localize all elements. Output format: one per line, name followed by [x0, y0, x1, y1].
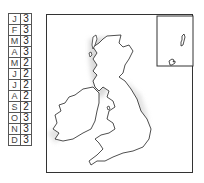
table-row: J2: [9, 69, 32, 80]
inset-frame: [157, 16, 193, 66]
table-row: N3: [9, 124, 32, 135]
month-value: 2: [21, 58, 32, 69]
month-label: M: [9, 36, 21, 47]
month-value: 3: [21, 36, 32, 47]
table-row: A3: [9, 47, 32, 58]
month-label: N: [9, 124, 21, 135]
month-label: D: [9, 135, 21, 146]
month-value-table: J3 F3 M3 A3 M2 J2 J2 A2 S2 O3 N3 D3: [8, 13, 32, 146]
month-value: 3: [21, 124, 32, 135]
month-label: M: [9, 58, 21, 69]
table-row: A2: [9, 91, 32, 102]
table-row: O3: [9, 113, 32, 124]
isle-of-man: [107, 106, 110, 110]
month-value: 2: [21, 69, 32, 80]
month-label: J: [9, 69, 21, 80]
month-value: 3: [21, 25, 32, 36]
month-value: 2: [21, 102, 32, 113]
table-row: F3: [9, 25, 32, 36]
month-label: A: [9, 91, 21, 102]
month-value: 3: [21, 14, 32, 25]
table-row: D3: [9, 135, 32, 146]
table-row: M2: [9, 58, 32, 69]
month-value: 3: [21, 113, 32, 124]
month-label: O: [9, 113, 21, 124]
ireland-outline: [53, 87, 99, 141]
table-row: M3: [9, 36, 32, 47]
month-label: F: [9, 25, 21, 36]
british-isles-map: [46, 14, 193, 173]
table-row: S2: [9, 102, 32, 113]
month-value: 3: [21, 47, 32, 58]
month-value: 2: [21, 80, 32, 91]
table-row: J2: [9, 80, 32, 91]
table-row: J3: [9, 14, 32, 25]
month-value: 2: [21, 91, 32, 102]
month-label: J: [9, 14, 21, 25]
map-svg: [47, 15, 194, 174]
month-label: J: [9, 80, 21, 91]
month-label: S: [9, 102, 21, 113]
month-label: A: [9, 47, 21, 58]
month-value: 3: [21, 135, 32, 146]
